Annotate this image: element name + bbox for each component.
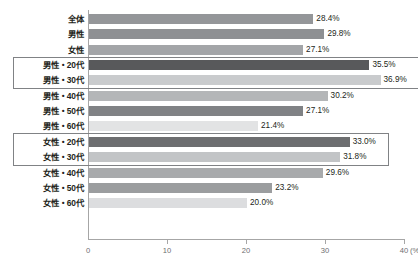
category-label: 女性・50代 bbox=[43, 182, 84, 195]
bar bbox=[89, 106, 303, 116]
category-label: 男性 bbox=[68, 28, 84, 41]
category-label: 男性・30代 bbox=[43, 74, 84, 87]
x-axis-tick bbox=[167, 240, 168, 244]
category-label: 男性・50代 bbox=[43, 105, 84, 118]
x-axis-tick bbox=[404, 240, 405, 244]
bar bbox=[89, 152, 340, 162]
bar-value-label: 30.2% bbox=[331, 90, 354, 101]
category-label: 女性・60代 bbox=[43, 197, 84, 210]
bar bbox=[89, 14, 313, 24]
bar-value-label: 23.2% bbox=[275, 182, 298, 193]
category-label-column: 全体男性女性男性・20代男性・30代男性・40代男性・50代男性・60代女性・2… bbox=[0, 0, 88, 240]
bar-value-label: 28.4% bbox=[316, 13, 339, 24]
x-axis-tick-label: 40 bbox=[400, 246, 408, 255]
bar-value-label: 20.0% bbox=[250, 197, 273, 208]
x-axis-tick bbox=[246, 240, 247, 244]
x-axis-unit-label: (%) bbox=[410, 246, 418, 255]
bar-value-label: 35.5% bbox=[372, 59, 395, 70]
bar bbox=[89, 75, 381, 85]
bar-value-label: 31.8% bbox=[343, 151, 366, 162]
x-axis-tick bbox=[325, 240, 326, 244]
category-label: 女性・30代 bbox=[43, 151, 84, 164]
category-label: 男性・40代 bbox=[43, 90, 84, 103]
category-label: 男性・60代 bbox=[43, 120, 84, 133]
category-label: 女性 bbox=[68, 44, 84, 57]
bar-value-label: 36.9% bbox=[384, 74, 407, 85]
x-axis-tick-label: 30 bbox=[321, 246, 329, 255]
bar-value-label: 29.6% bbox=[326, 167, 349, 178]
category-label: 男性・20代 bbox=[43, 59, 84, 72]
bar bbox=[89, 121, 258, 131]
bar bbox=[89, 183, 272, 193]
x-axis-tick-label: 0 bbox=[86, 246, 90, 255]
bar-value-label: 29.8% bbox=[327, 28, 350, 39]
bar bbox=[89, 91, 328, 101]
category-label: 女性・20代 bbox=[43, 136, 84, 149]
category-label: 全体 bbox=[68, 13, 84, 26]
bar bbox=[89, 198, 247, 208]
x-axis-tick-label: 10 bbox=[163, 246, 171, 255]
chart-caption bbox=[14, 265, 414, 275]
bar-value-label: 21.4% bbox=[261, 120, 284, 131]
plot-area: 28.4%29.8%27.1%35.5%36.9%30.2%27.1%21.4%… bbox=[88, 0, 404, 240]
bar bbox=[89, 60, 369, 70]
bar bbox=[89, 168, 323, 178]
bar-chart: 全体男性女性男性・20代男性・30代男性・40代男性・50代男性・60代女性・2… bbox=[0, 0, 418, 275]
bar bbox=[89, 29, 324, 39]
bar bbox=[89, 45, 303, 55]
category-label: 女性・40代 bbox=[43, 167, 84, 180]
bar-value-label: 27.1% bbox=[306, 44, 329, 55]
x-axis-tick-label: 20 bbox=[242, 246, 250, 255]
bar-value-label: 27.1% bbox=[306, 105, 329, 116]
bar-value-label: 33.0% bbox=[353, 136, 376, 147]
bar bbox=[89, 137, 350, 147]
